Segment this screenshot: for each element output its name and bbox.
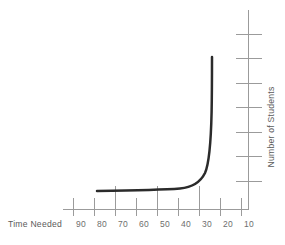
x-tick-label-70: 70: [118, 219, 128, 229]
y-axis-title: Number of Students: [266, 87, 276, 168]
line-chart: 90 80 70 60 50 40 30 20 10 Time Needed N…: [0, 0, 285, 245]
x-tick-label-80: 80: [97, 219, 107, 229]
x-tick-label-90: 90: [76, 219, 86, 229]
x-tick-label-30: 30: [202, 219, 212, 229]
x-tick-label-10: 10: [244, 219, 254, 229]
x-tick-label-60: 60: [139, 219, 149, 229]
x-tick-label-40: 40: [181, 219, 191, 229]
x-axis-title: Time Needed: [8, 219, 62, 229]
x-axis-tick-labels: 90 80 70 60 50 40 30 20 10: [76, 219, 254, 229]
chart-background: [0, 0, 285, 245]
chart-container: 90 80 70 60 50 40 30 20 10 Time Needed N…: [0, 0, 285, 245]
x-tick-label-50: 50: [160, 219, 170, 229]
x-tick-label-20: 20: [223, 219, 233, 229]
